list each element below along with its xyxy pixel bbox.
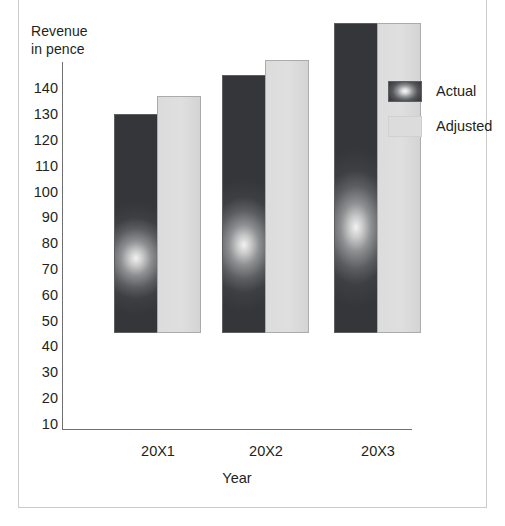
adjusted-swatch-icon bbox=[388, 116, 422, 137]
x-axis-tick-label: 20X2 bbox=[210, 444, 322, 459]
x-axis-tick-label: 20X1 bbox=[102, 444, 214, 459]
bar-adjusted-20X3 bbox=[377, 23, 421, 333]
y-axis-tick-label: 130 bbox=[22, 107, 58, 122]
bar-actual-20X2 bbox=[222, 75, 266, 333]
legend-item-actual: Actual bbox=[388, 80, 498, 102]
chart-page: Revenue in pence 14013012011010090807060… bbox=[0, 0, 505, 526]
actual-swatch-icon bbox=[388, 81, 422, 102]
bar-group bbox=[334, 0, 421, 333]
y-axis-tick-labels: 140130120110100908070605040302010 bbox=[18, 0, 58, 526]
y-axis-tick-label: 110 bbox=[22, 159, 58, 174]
y-axis-tick-label: 40 bbox=[22, 339, 58, 354]
y-axis-tick-label: 10 bbox=[22, 417, 58, 432]
y-axis-tick-label: 90 bbox=[22, 210, 58, 225]
chart-legend: Actual Adjusted bbox=[388, 80, 498, 150]
bar-adjusted-20X2 bbox=[265, 60, 309, 333]
bar-groups bbox=[62, 0, 412, 430]
bar-adjusted-20X1 bbox=[157, 96, 201, 333]
y-axis-tick-label: 30 bbox=[22, 365, 58, 380]
legend-item-adjusted: Adjusted bbox=[388, 115, 498, 137]
bar-chart: Revenue in pence 14013012011010090807060… bbox=[0, 0, 505, 526]
y-axis-tick-label: 70 bbox=[22, 262, 58, 277]
y-axis-tick-label: 80 bbox=[22, 236, 58, 251]
bar-group bbox=[222, 0, 309, 333]
bar-actual-20X1 bbox=[114, 114, 158, 333]
legend-label-adjusted: Adjusted bbox=[436, 119, 492, 134]
y-axis-tick-label: 100 bbox=[22, 184, 58, 199]
bar-group bbox=[114, 0, 201, 333]
y-axis-tick-label: 20 bbox=[22, 391, 58, 406]
y-axis-tick-label: 50 bbox=[22, 313, 58, 328]
bar-actual-20X3 bbox=[334, 23, 378, 333]
y-axis-tick-label: 140 bbox=[22, 81, 58, 96]
x-axis-tick-label: 20X3 bbox=[322, 444, 434, 459]
x-axis-title: Year bbox=[62, 470, 412, 486]
y-axis-tick-label: 60 bbox=[22, 288, 58, 303]
y-axis-tick-label: 120 bbox=[22, 133, 58, 148]
legend-label-actual: Actual bbox=[436, 84, 476, 99]
